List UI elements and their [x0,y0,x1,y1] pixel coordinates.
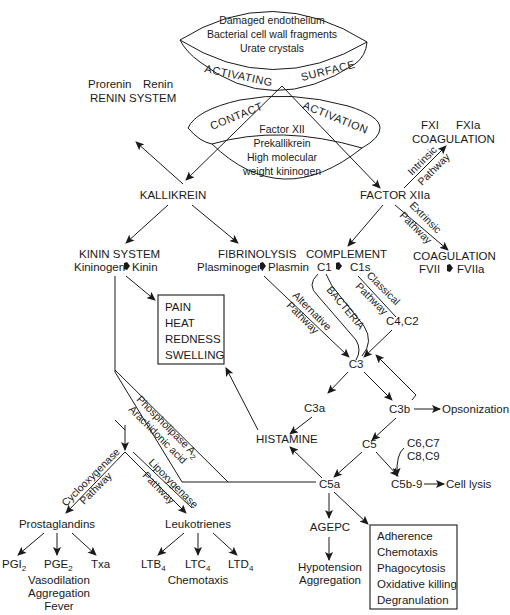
c8-c9-label: C8,C9 [407,450,440,462]
symptoms-box: PAIN HEAT REDNESS SWELLING [158,295,224,364]
plasmin-label: Plasmin [268,261,309,273]
conversion-arrowhead-icon [336,262,342,270]
opsonization-label: Opsonization [442,403,509,415]
leukotrienes-title: Leukotrienes [165,518,231,530]
prostaglandin-effect: Aggregation [28,587,90,599]
fibrinolysis: FIBRINOLYSIS Plasminogen Plasmin [197,248,309,273]
symptom-item: HEAT [165,317,195,329]
c3b-label: C3b [389,403,410,415]
symptom-item: PAIN [165,301,191,313]
prorenin-label: Prorenin [88,78,131,90]
prostaglandins-title: Prostaglandins [19,518,95,530]
agepc-effect: Hypotension [298,561,362,573]
kinin-system: KININ SYSTEM Kininogen Kinin [74,248,160,273]
pge2-label: PGE2 [44,558,73,573]
conversion-arrowhead-icon [447,264,453,272]
c3-label: C3 [349,358,364,370]
band-label-contact: CONTACT [208,100,264,132]
c5a-effects-box: Adherence Chemotaxis Phagocytosis Oxidat… [370,525,457,609]
inflammation-pathway-diagram: Damaged endothelium Bacterial cell wall … [0,0,510,615]
c6-c7-label: C6,C7 [407,437,440,449]
band-label-activating: ACTIVATING [204,62,274,88]
activating-surface: Damaged endothelium Bacterial cell wall … [180,11,367,90]
symptom-item: REDNESS [165,333,221,345]
intrinsic-coagulation: FXI FXIa COAGULATION [412,119,495,145]
fxi-label: FXI [421,119,439,131]
coagulation-title: COAGULATION [413,250,496,262]
c4-c2-label: C4,C2 [386,315,419,327]
c5a-effect-item: Degranulation [377,594,449,606]
c3a-label: C3a [304,402,326,414]
contact-item: Prekallikrein [253,137,310,149]
c1s-label: C1s [350,261,371,273]
surface-item: Damaged endothelium [219,14,325,26]
contact-item: High molecular [247,151,318,163]
cell-lysis-label: Cell lysis [446,478,492,490]
ltd4-label: LTD4 [228,558,254,573]
contact-item: weight kininogen [242,165,321,177]
plasminogen-label: Plasminogen [197,261,263,273]
fvii-label: FVII [419,263,440,275]
c5a-effect-item: Phagocytosis [377,562,446,574]
symptom-item: SWELLING [165,349,224,361]
extrinsic-coagulation: COAGULATION FVII FVIIa [413,250,496,275]
c5-label: C5 [362,438,377,450]
renin-system-title: RENIN SYSTEM [90,92,176,104]
factor-xiia-label: FACTOR XIIa [360,189,431,201]
renin-label: Renin [143,78,173,90]
c1-label: C1 [317,261,332,273]
complement: COMPLEMENT C1 C1s [306,248,387,273]
kinin-label: Kinin [132,261,158,273]
coagulation-title: COAGULATION [412,133,495,145]
conversion-arrowhead-icon [260,262,266,270]
txa-label: Txa [91,558,111,570]
c5a-label: C5a [319,478,341,490]
fxia-label: FXIa [456,119,481,131]
prostaglandin-effect: Vasodilation [28,574,90,586]
conversion-arrowhead-icon [124,262,130,270]
c5b9-label: C5b-9 [391,478,422,490]
complement-title: COMPLEMENT [306,248,387,260]
surface-item: Urate crystals [240,42,304,54]
surface-item: Bacterial cell wall fragments [207,28,337,40]
ltc4-label: LTC4 [185,558,211,573]
prostaglandin-effect: Fever [44,600,74,612]
fibrinolysis-title: FIBRINOLYSIS [218,248,297,260]
contact-item: Factor XII [259,123,305,135]
histamine-label: HISTAMINE [256,433,318,445]
c5a-effect-item: Chemotaxis [377,546,438,558]
fviia-label: FVIIa [457,263,485,275]
c5a-effect-item: Oxidative killing [377,578,457,590]
kallikrein-label: KALLIKREIN [140,189,206,201]
kininogen-label: Kininogen [74,261,125,273]
contact-activation: CONTACT ACTIVATION Factor XII Prekallikr… [188,96,380,179]
kinin-system-title: KININ SYSTEM [79,248,160,260]
agepc-label: AGEPC [310,521,350,533]
agepc-effect: Aggregation [299,574,361,586]
leukotriene-effect: Chemotaxis [168,574,229,586]
renin-system: Prorenin Renin RENIN SYSTEM [88,78,176,104]
c5a-effect-item: Adherence [377,530,433,542]
pgi2-label: PGI2 [2,558,27,573]
ltb4-label: LTB4 [141,558,166,573]
